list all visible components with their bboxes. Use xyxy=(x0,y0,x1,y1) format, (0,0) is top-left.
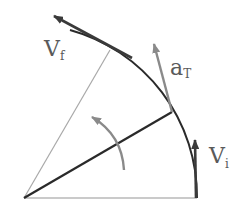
v-final-label: Vf xyxy=(43,36,66,63)
circular-motion-diagram: Vf aT Vi xyxy=(0,0,247,210)
v-initial-label: Vi xyxy=(208,143,229,171)
a-tangential-label: aT xyxy=(170,55,191,81)
v-final-arrow xyxy=(54,16,132,58)
v-initial-arrow xyxy=(195,140,196,198)
final-radius-line xyxy=(24,50,110,198)
middle-radius-line xyxy=(24,112,172,198)
